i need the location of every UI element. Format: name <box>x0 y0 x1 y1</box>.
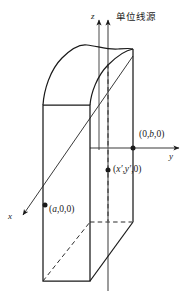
slab-hidden-edges <box>43 222 132 281</box>
point-b-close: ,0) <box>154 129 164 139</box>
point-b-dot <box>131 146 136 151</box>
y-axis-label: y <box>169 152 173 161</box>
point-b-open: (0, <box>139 129 149 139</box>
x-axis-label: x <box>8 212 12 221</box>
unit-line-source-label: 单位线源 <box>116 12 156 22</box>
point-source-dot <box>106 168 111 173</box>
z-axis-label: z <box>91 12 95 21</box>
point-source-label: (x′,y′,0) <box>113 165 141 175</box>
figure-container: z y x 单位线源 (0,b,0) (x′,y′,0) (a,0,0) <box>0 0 186 299</box>
axis-x <box>23 56 133 215</box>
point-b-label: (0,b,0) <box>139 130 164 140</box>
diagram-canvas <box>0 0 186 299</box>
point-source-close: ,0) <box>131 164 141 174</box>
point-a-close: ,0,0) <box>57 204 74 214</box>
point-a-label: (a,0,0) <box>49 205 74 215</box>
point-a-dot <box>43 203 48 208</box>
slab-front-face <box>43 105 90 281</box>
